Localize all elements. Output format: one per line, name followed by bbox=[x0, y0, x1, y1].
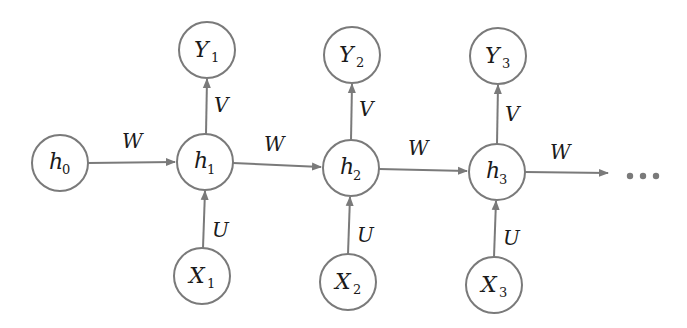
node-y2: Y 2 bbox=[324, 27, 380, 83]
node-y1: Y 1 bbox=[179, 22, 235, 78]
svg-text:X: X bbox=[187, 263, 206, 288]
svg-text:X: X bbox=[479, 272, 498, 297]
svg-text:3: 3 bbox=[499, 285, 507, 300]
edge-h1-h2 bbox=[233, 163, 321, 167]
output-edges bbox=[206, 79, 498, 144]
edge-h3-y3 bbox=[497, 85, 498, 144]
svg-text:2: 2 bbox=[353, 282, 361, 297]
node-h1: h 1 bbox=[177, 134, 233, 190]
label-v-1: V bbox=[214, 93, 231, 117]
svg-text:1: 1 bbox=[211, 50, 219, 65]
svg-text:3: 3 bbox=[502, 56, 510, 71]
label-v-2: V bbox=[359, 97, 376, 121]
edge-h0-h1 bbox=[88, 162, 175, 163]
ellipsis-icon bbox=[627, 173, 659, 179]
edge-x3-h3 bbox=[494, 201, 496, 257]
label-u-2: U bbox=[357, 223, 375, 247]
svg-text:3: 3 bbox=[499, 172, 507, 187]
node-h3: h 3 bbox=[469, 144, 525, 200]
edge-h3-next bbox=[525, 172, 608, 173]
node-x1: X 1 bbox=[174, 248, 230, 304]
svg-text:Y: Y bbox=[339, 42, 356, 67]
edge-x1-h1 bbox=[203, 191, 205, 248]
svg-text:Y: Y bbox=[485, 43, 502, 68]
svg-text:Y: Y bbox=[194, 37, 211, 62]
input-edges bbox=[203, 191, 496, 257]
node-x2: X 2 bbox=[320, 254, 376, 310]
label-w-3: W bbox=[408, 136, 430, 160]
rnn-diagram: W W W W V V V U U U h 0 h 1 h 2 h 3 Y 1 … bbox=[0, 0, 687, 328]
node-y3: Y 3 bbox=[470, 28, 526, 84]
svg-text:2: 2 bbox=[353, 168, 361, 183]
svg-text:1: 1 bbox=[207, 276, 215, 291]
node-x3: X 3 bbox=[466, 257, 522, 313]
label-v-3: V bbox=[505, 102, 522, 126]
node-h0: h 0 bbox=[32, 135, 88, 191]
svg-text:2: 2 bbox=[356, 55, 364, 70]
edge-h2-y2 bbox=[351, 84, 352, 140]
svg-text:0: 0 bbox=[62, 162, 70, 177]
node-h2: h 2 bbox=[323, 140, 379, 196]
edge-h1-y1 bbox=[206, 79, 207, 134]
label-u-1: U bbox=[212, 218, 230, 242]
label-w-1: W bbox=[122, 129, 144, 153]
svg-text:X: X bbox=[333, 269, 352, 294]
edge-x2-h2 bbox=[348, 197, 350, 254]
svg-text:1: 1 bbox=[207, 162, 215, 177]
label-w-4: W bbox=[550, 140, 572, 164]
edge-h2-h3 bbox=[379, 169, 467, 171]
label-w-2: W bbox=[264, 132, 286, 156]
label-u-3: U bbox=[503, 226, 521, 250]
